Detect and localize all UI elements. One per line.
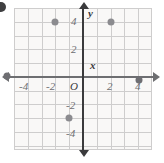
data-point xyxy=(66,115,73,122)
data-point xyxy=(4,73,11,80)
y-tick-label-pos4: 4 xyxy=(71,16,77,27)
data-point xyxy=(108,19,115,26)
data-point xyxy=(52,19,59,26)
x-tick-label-neg4: -4 xyxy=(19,81,28,92)
y-axis-down-arrow-icon xyxy=(79,150,89,157)
x-tick-label-pos2: 2 xyxy=(107,81,113,92)
y-tick-label-pos2: 2 xyxy=(71,44,77,55)
x-axis-right-arrow-icon xyxy=(153,72,160,82)
y-tick-label-neg2: -2 xyxy=(66,100,75,111)
y-axis-label: y xyxy=(88,8,93,19)
scan-artifact xyxy=(0,2,6,12)
data-point xyxy=(136,77,143,84)
y-tick-label-neg4: -4 xyxy=(66,128,75,139)
x-tick-label-neg2: -2 xyxy=(46,81,55,92)
origin-label: O xyxy=(70,81,78,92)
y-axis-line xyxy=(82,6,84,154)
x-axis-label: x xyxy=(90,60,96,71)
coordinate-plane-figure: x y O -4 -2 2 4 4 2 -2 -4 xyxy=(0,0,164,163)
